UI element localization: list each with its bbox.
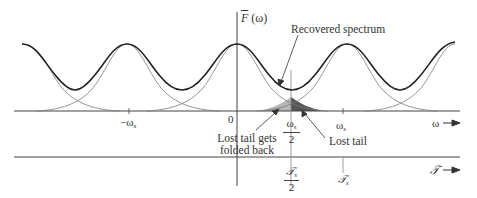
tick-label-Fs-main: 𝒯	[338, 173, 346, 185]
tick-label-half-Fs-num: 𝒯s	[284, 166, 299, 181]
tick-label-neg-ws: −ωs	[120, 117, 136, 130]
y-axis-label-arg: (ω)	[251, 11, 267, 25]
tick-label-ws-sub: s	[343, 125, 346, 133]
lost-tail-region	[291, 97, 324, 111]
component-curve-m2	[22, 44, 120, 111]
tick-label-half-Fs-den: 2	[284, 181, 299, 193]
axis-arrows	[443, 120, 460, 173]
omega-axis-arrowhead	[452, 120, 460, 126]
omega-axis-label: ω	[432, 118, 439, 129]
f-axis-label: 𝒯	[430, 164, 439, 176]
tick-label-Fs-sub: s	[346, 179, 349, 187]
y-axis-label-main: F	[241, 11, 248, 25]
lost-tail-arrow	[305, 114, 325, 138]
component-curve-p1	[256, 44, 438, 111]
component-curve-p2	[364, 44, 455, 111]
tick-label-half-ws-den: 2	[283, 133, 300, 145]
tick-label-half-ws: ωs 2	[283, 118, 300, 145]
recovered-spectrum-arrow	[281, 35, 298, 82]
aliasing-spectrum-diagram	[0, 0, 477, 198]
tick-label-Fs: 𝒯s	[338, 174, 349, 187]
tick-label-ws: ωs	[336, 120, 346, 133]
component-spectra	[22, 44, 455, 111]
lost-tail-folded-line2: folded back	[220, 144, 274, 156]
recovered-spectrum-label: Recovered spectrum	[291, 24, 385, 36]
tick-label-zero: 0	[228, 114, 234, 125]
recovered-spectrum-curve	[22, 42, 455, 90]
component-curve-m1	[36, 44, 220, 111]
tick-label-half-Fs: 𝒯s 2	[284, 166, 299, 193]
folded-tail-arrow	[256, 112, 276, 130]
recovered-spectrum-arrowhead	[278, 79, 284, 86]
f-axis-arrowhead	[452, 167, 460, 173]
y-axis-label: F (ω)	[241, 12, 267, 24]
lost-tail-label: Lost tail	[329, 136, 367, 148]
lost-tail-folded-line1: Lost tail gets	[217, 132, 276, 144]
tick-label-neg-ws-main: −ω	[120, 116, 133, 128]
tick-label-neg-ws-sub: s	[133, 122, 136, 130]
tick-label-half-ws-num: ωs	[283, 118, 300, 133]
lost-tail-folded-label: Lost tail gets folded back	[213, 132, 281, 156]
